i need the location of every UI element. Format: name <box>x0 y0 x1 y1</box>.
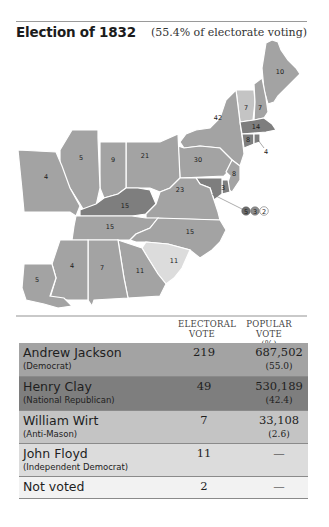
candidate-name: William Wirt <box>23 413 98 428</box>
state-mississippi <box>50 240 88 300</box>
label-indiana: 9 <box>111 156 115 164</box>
split-label-jackson: 3 <box>253 208 257 216</box>
title-rule <box>16 21 307 22</box>
popular-vote: 687,502 <box>244 345 314 359</box>
state-rhode-island <box>254 134 260 144</box>
label-pennsylvania: 30 <box>194 156 202 164</box>
label-new-jersey: 8 <box>232 170 236 178</box>
popular-vote: — <box>244 479 314 493</box>
label-vermont: 7 <box>244 104 248 112</box>
label-rhode-island: 4 <box>264 148 268 156</box>
label-new-york: 42 <box>214 114 222 122</box>
candidate-name: John Floyd <box>23 446 88 461</box>
label-missouri: 4 <box>44 173 48 181</box>
label-ohio: 21 <box>141 152 149 160</box>
label-new-hampshire: 7 <box>258 104 262 112</box>
popular-vote: 530,189 <box>244 379 314 393</box>
state-indiana <box>100 142 126 198</box>
label-tennessee: 15 <box>106 223 114 231</box>
electoral-vote: 11 <box>189 446 219 460</box>
popular-vote: 33,108 <box>244 413 314 427</box>
candidate-name: Not voted <box>23 479 84 494</box>
election-map: 10 7 7 42 14 8 4 30 8 3 21 9 5 4 15 23 1… <box>0 38 329 308</box>
label-maine: 10 <box>276 68 284 76</box>
label-south-carolina: 11 <box>170 257 178 265</box>
label-louisiana: 5 <box>35 276 39 284</box>
candidate-party: (Anti-Mason) <box>23 429 77 439</box>
candidate-party: (Democrat) <box>23 361 72 371</box>
section-divider <box>16 315 307 317</box>
electoral-vote: 7 <box>189 413 219 427</box>
popular-percent: (55.0) <box>244 361 314 371</box>
electoral-vote: 2 <box>189 479 219 493</box>
label-mississippi: 4 <box>70 262 74 270</box>
label-connecticut: 8 <box>246 136 250 144</box>
label-illinois: 5 <box>79 154 83 162</box>
table-row-not-voted: Not voted 2 — <box>19 477 308 499</box>
column-header-electoral: ELECTORAL VOTE <box>178 319 226 339</box>
popular-percent: (42.4) <box>244 395 314 405</box>
candidate-party: (Independent Democrat) <box>23 462 128 472</box>
electoral-vote: 49 <box>189 379 219 393</box>
candidate-name: Henry Clay <box>23 379 92 394</box>
electoral-vote: 219 <box>189 345 219 359</box>
label-north-carolina: 15 <box>186 228 194 236</box>
table-row-jackson: Andrew Jackson (Democrat) 219 687,502 (5… <box>19 343 308 377</box>
table-row-clay: Henry Clay (National Republican) 49 530,… <box>19 377 308 411</box>
label-massachusetts: 14 <box>252 123 260 131</box>
candidate-name: Andrew Jackson <box>23 345 122 360</box>
label-delaware: 3 <box>221 184 225 192</box>
table-row-wirt: William Wirt (Anti-Mason) 7 33,108 (2.6) <box>19 411 308 444</box>
split-label-clay: 5 <box>244 208 248 216</box>
table-row-floyd: John Floyd (Independent Democrat) 11 — <box>19 444 308 477</box>
label-georgia: 11 <box>136 267 144 275</box>
label-kentucky: 15 <box>121 202 129 210</box>
popular-percent: (2.6) <box>244 429 314 439</box>
split-label-not-voted: 2 <box>262 208 266 216</box>
label-virginia: 23 <box>176 186 184 194</box>
popular-vote: — <box>244 446 314 460</box>
label-alabama: 7 <box>100 264 104 272</box>
state-ohio <box>126 134 180 192</box>
candidate-party: (National Republican) <box>23 395 115 405</box>
results-table: Andrew Jackson (Democrat) 219 687,502 (5… <box>19 343 308 499</box>
